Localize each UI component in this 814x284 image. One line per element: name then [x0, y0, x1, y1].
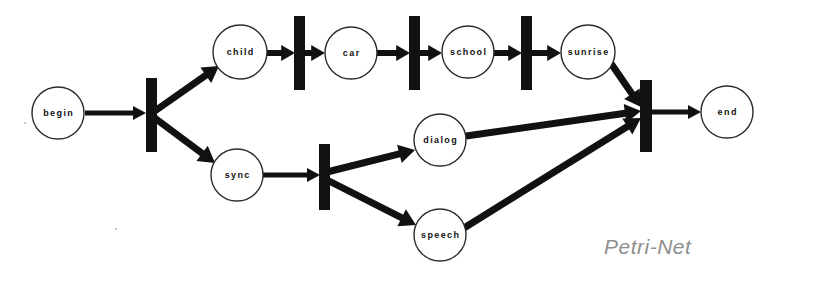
place-sync[interactable]: sync — [211, 149, 263, 201]
place-label: sync — [225, 170, 251, 180]
place-dialog[interactable]: dialog — [414, 114, 466, 166]
place-label: speech — [421, 230, 460, 240]
place-sunrise[interactable]: sunrise — [561, 25, 615, 79]
place-speech[interactable]: speech — [414, 209, 466, 261]
transition-bar-t-fork-sync[interactable] — [319, 144, 330, 210]
transition-bar-t-school-sunrise[interactable] — [521, 16, 532, 90]
place-begin[interactable]: begin — [32, 87, 84, 139]
transition-bar-t-fork-begin[interactable] — [146, 78, 157, 152]
transition-bar-t-child-car[interactable] — [294, 16, 305, 90]
diagram-caption: Petri-Net — [604, 235, 692, 258]
transition-bar-t-merge-end[interactable] — [640, 80, 652, 152]
place-label: car — [343, 48, 361, 58]
place-label: dialog — [423, 135, 458, 145]
place-end[interactable]: end — [701, 86, 753, 138]
scan-speck — [24, 122, 26, 124]
place-school[interactable]: school — [442, 26, 494, 78]
scan-speck — [115, 228, 117, 230]
place-label: begin — [43, 108, 74, 118]
transition-bar-t-car-school[interactable] — [409, 16, 420, 90]
place-label: school — [450, 47, 487, 57]
place-label: end — [718, 107, 738, 117]
place-label: child — [227, 47, 255, 57]
place-car[interactable]: car — [325, 27, 377, 79]
diagram-background — [0, 0, 814, 284]
place-child[interactable]: child — [213, 25, 267, 79]
place-label: sunrise — [568, 47, 610, 57]
petri-net-diagram: beginchildcarschoolsunrisesyncdialogspee… — [0, 0, 814, 284]
